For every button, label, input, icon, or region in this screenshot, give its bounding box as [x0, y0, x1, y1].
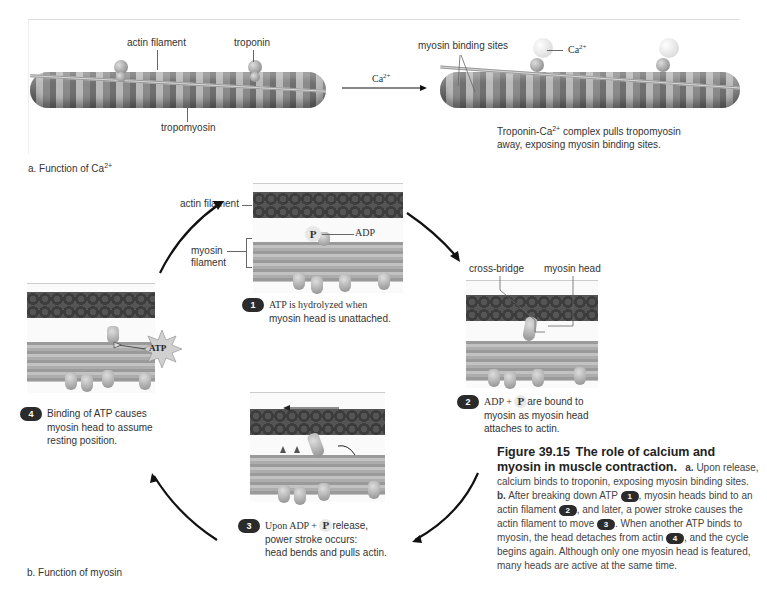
- actin-filament-step4: [27, 292, 155, 318]
- troponin-before-2b: [250, 72, 260, 82]
- label-actin-filament-step1: actin filament: [180, 198, 239, 209]
- panel-b-title: b. Function of myosin: [27, 567, 122, 578]
- caption-badge-4: 4: [666, 533, 684, 544]
- step2-text: 2ADP + Pare bound to myosin as myosin he…: [457, 395, 589, 435]
- label-myosin-binding-sites: myosin binding sites: [418, 40, 508, 51]
- step2-panel: [466, 280, 598, 388]
- step4-text: 4Binding of ATP causes myosin head to as…: [20, 407, 153, 447]
- step1-badge: 1: [242, 298, 264, 312]
- label-atp: ATP: [149, 343, 166, 353]
- label-troponin: troponin: [234, 37, 270, 48]
- calcium-ion-1: [533, 38, 553, 58]
- actin-filament-step1: [253, 192, 403, 218]
- figure-number: Figure 39.15: [497, 445, 570, 459]
- phosphate-p-step3: P: [319, 519, 332, 532]
- arrow-ca-label: Ca2+: [372, 72, 391, 84]
- leader-adp: [322, 234, 354, 235]
- label-adp: ADP: [355, 227, 375, 238]
- leader-tropomyosin: [187, 104, 188, 122]
- calcium-ion-2: [659, 38, 679, 58]
- troponin-after-2: [656, 58, 670, 72]
- label-myosin-filament-1: myosin: [191, 245, 223, 256]
- leader-actin-step1: [242, 205, 252, 206]
- step4-panel: [27, 283, 155, 393]
- step3-text: 3Upon ADP + Prelease, power stroke occur…: [238, 519, 387, 559]
- myosin-bracket: [246, 238, 252, 268]
- leader-ca: [547, 50, 563, 51]
- troponin-before-1b: [116, 72, 126, 82]
- label-myosin-filament-2: filament: [191, 257, 226, 268]
- label-tropomyosin: tropomyosin: [161, 122, 215, 133]
- leader-actin: [157, 50, 158, 70]
- phosphate-p-step2: P: [514, 395, 527, 408]
- label-actin-filament: actin filament: [127, 37, 186, 48]
- actin-filament-step3: [250, 409, 385, 435]
- step1-panel: [253, 183, 403, 293]
- leader-troponin: [253, 50, 254, 62]
- cycle-arrows-icon: [0, 0, 1, 1]
- caption-badge-2: 2: [559, 505, 577, 516]
- panel-a-description: Troponin-Ca2+ complex pulls tropomyosin …: [497, 122, 681, 151]
- troponin-after-1: [530, 58, 544, 72]
- label-myosin-head: myosin head: [544, 263, 601, 274]
- step3-badge: 3: [238, 519, 260, 533]
- step1-text: 1ATP is hydrolyzed when myosin head is u…: [242, 298, 391, 325]
- caption-badge-3: 3: [597, 519, 615, 530]
- step4-badge: 4: [20, 407, 42, 421]
- figure-caption: Figure 39.15 The role of calcium and myo…: [497, 445, 759, 573]
- leader-myosin: [227, 251, 247, 252]
- panel-a-title: a. Function of Ca2+: [28, 162, 112, 174]
- label-cross-bridge: cross-bridge: [469, 263, 524, 274]
- caption-badge-1: 1: [621, 491, 639, 502]
- phosphate-p-step1: P: [305, 226, 321, 242]
- step2-badge: 2: [457, 395, 479, 409]
- label-ca-ion: Ca2+: [568, 43, 587, 55]
